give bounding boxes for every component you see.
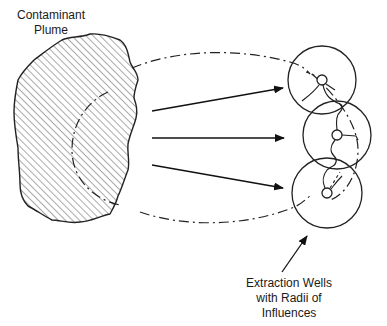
wells-label: Extraction Wells with Radii of Influence… bbox=[218, 276, 360, 321]
well-bottom bbox=[322, 188, 332, 198]
well-bottom-streamline-right bbox=[331, 176, 342, 189]
plume-label-line1: Contaminant bbox=[12, 8, 90, 23]
well-middle-streamline-up bbox=[336, 112, 340, 130]
well-middle bbox=[332, 130, 342, 140]
wells-label-line3: Influences bbox=[218, 306, 360, 321]
well-middle-streamline-down bbox=[331, 140, 336, 166]
capture-zone-lower bbox=[140, 196, 310, 223]
flow-arrow-top bbox=[152, 88, 283, 111]
capture-zone-upper bbox=[132, 53, 310, 74]
well-top-streamline-left bbox=[302, 85, 319, 101]
wells-label-line2: with Radii of bbox=[218, 291, 360, 306]
plume-label-line2: Plume bbox=[12, 23, 90, 38]
wells-callout-arrow bbox=[282, 236, 307, 272]
plume-label: Contaminant Plume bbox=[12, 8, 90, 38]
well-bottom-streamline-up bbox=[323, 166, 333, 188]
flow-arrow-bottom bbox=[152, 165, 283, 188]
well-top-dashed bbox=[306, 72, 316, 76]
well-middle-streamline-right bbox=[342, 135, 358, 140]
wells-label-line1: Extraction Wells bbox=[218, 276, 360, 291]
well-top bbox=[317, 75, 327, 85]
